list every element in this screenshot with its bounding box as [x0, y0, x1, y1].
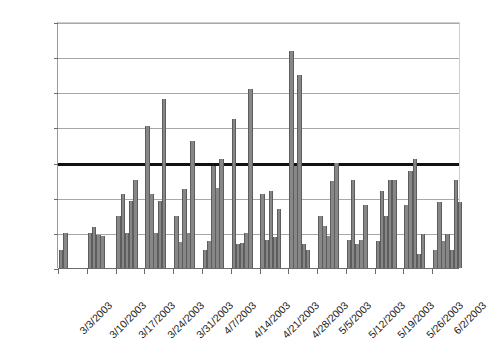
- bar: [458, 202, 463, 268]
- x-axis-tick-mark: [346, 269, 347, 274]
- x-axis-tick-mark: [403, 269, 404, 274]
- x-axis-tick-mark: [317, 269, 318, 274]
- bar: [297, 75, 302, 268]
- bar: [363, 205, 368, 268]
- bar: [334, 163, 339, 268]
- bar: [421, 234, 426, 268]
- x-axis-tick-mark: [375, 269, 376, 274]
- bar: [277, 209, 282, 268]
- x-axis-tick-mark: [87, 269, 88, 274]
- bar: [162, 99, 167, 268]
- bar: [219, 159, 224, 268]
- bar: [100, 236, 105, 268]
- bars-group: [58, 23, 459, 268]
- x-axis-tick-mark: [432, 269, 433, 274]
- x-axis-tick-mark: [231, 269, 232, 274]
- x-axis-tick-mark: [173, 269, 174, 274]
- x-axis-tick-mark: [58, 269, 59, 274]
- x-axis-tick-mark: [144, 269, 145, 274]
- x-axis-tick-mark: [288, 269, 289, 274]
- bar: [392, 180, 397, 268]
- bar: [413, 159, 418, 268]
- bar: [306, 250, 311, 268]
- x-axis-tick-mark: [202, 269, 203, 274]
- x-axis-tick-mark: [260, 269, 261, 274]
- plot-area: 0100200300400500600700 3/3/20033/10/2003…: [57, 22, 460, 268]
- x-axis-tick-mark: [116, 269, 117, 274]
- bar: [133, 180, 138, 268]
- bar: [63, 233, 68, 268]
- bar: [248, 89, 253, 268]
- bar: [190, 141, 195, 268]
- gridline-0: [58, 268, 459, 269]
